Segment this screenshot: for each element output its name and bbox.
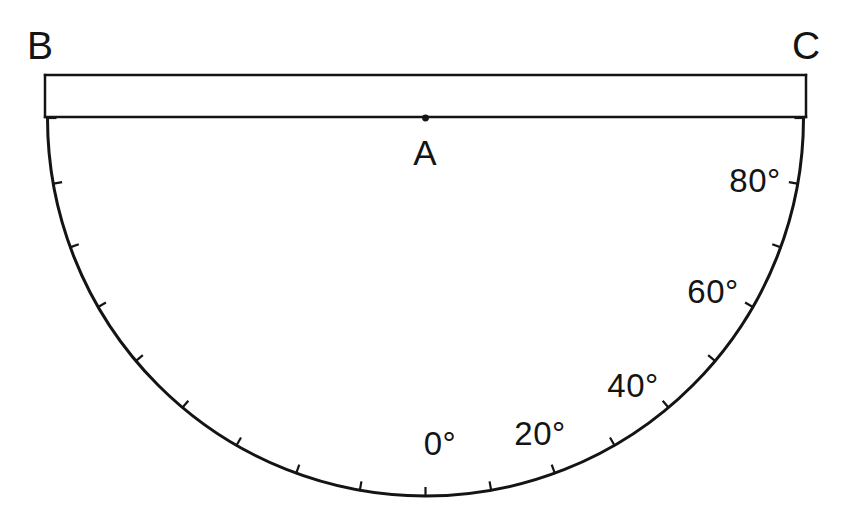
angle-label-80: 80° [729, 164, 780, 197]
angle-label-0: 0° [424, 427, 457, 460]
angle-label-20: 20° [514, 417, 565, 450]
vertex-label-c: C [792, 26, 820, 65]
center-point-marker [422, 115, 429, 122]
arc-tick--50 [135, 355, 143, 361]
arc-tick-50 [708, 355, 716, 361]
angle-label-60: 60° [687, 275, 738, 308]
center-point-label-a: A [413, 135, 436, 170]
arc-tick-40 [663, 401, 669, 409]
arc-tick--40 [182, 401, 188, 409]
protractor-diagram: B C A 0° 20° 40° 60° 80° [0, 0, 846, 512]
vertex-label-b: B [27, 26, 53, 65]
angle-label-40: 40° [607, 369, 658, 402]
